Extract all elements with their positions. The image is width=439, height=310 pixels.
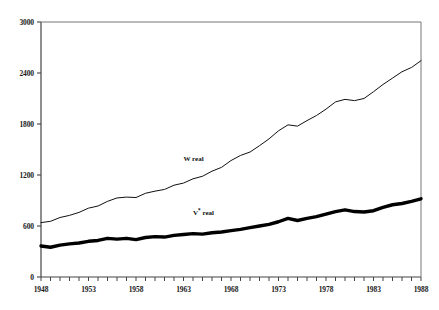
y-tick-label: 3000 xyxy=(0,18,34,27)
x-tick-label: 1968 xyxy=(224,285,239,294)
series-label-suffix: real xyxy=(201,209,214,217)
y-tick-label: 2400 xyxy=(0,69,34,78)
x-tick-label: 1983 xyxy=(366,285,381,294)
series-line-0 xyxy=(41,61,421,223)
y-tick-label: 1800 xyxy=(0,120,34,129)
x-tick-label: 1963 xyxy=(176,285,191,294)
data-series-group xyxy=(41,61,421,248)
x-tick-label: 1948 xyxy=(34,285,49,294)
y-tick-label: 600 xyxy=(0,222,34,231)
x-tick-label: 1958 xyxy=(129,285,144,294)
series-label-0: W real xyxy=(184,155,204,163)
x-tick-label: 1988 xyxy=(414,285,429,294)
x-tick-label: 1978 xyxy=(319,285,334,294)
x-tick-label: 1953 xyxy=(81,285,96,294)
line-chart-plot xyxy=(0,0,439,310)
y-tick-label: 1200 xyxy=(0,171,34,180)
series-label-1: V* real xyxy=(193,209,214,217)
y-tick-label: 0 xyxy=(0,273,34,282)
chart-container: 06001200180024003000 1948195319581963196… xyxy=(0,0,439,310)
x-tick-label: 1973 xyxy=(271,285,286,294)
